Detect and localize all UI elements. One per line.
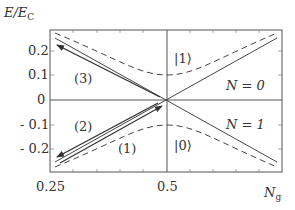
arrow-2 <box>57 103 158 157</box>
y-axis-label: E/EC <box>4 6 34 22</box>
arrow-1 <box>60 106 162 163</box>
arrow-1-label: (1) <box>118 142 136 155</box>
x-axis-label: Ng <box>264 186 281 202</box>
x-tick-0.5: 0.5 <box>157 180 178 193</box>
y-tick-0.2: 0.2 <box>28 44 49 57</box>
arrow-2-label: (2) <box>74 120 92 133</box>
ket-1-label: |1⟩ <box>174 52 192 65</box>
y-tick-0: 0 <box>37 93 45 106</box>
arrow-3-label: (3) <box>74 72 92 85</box>
y-tick-0.1: 0.1 <box>28 68 49 81</box>
x-tick-0.25: 0.25 <box>36 180 65 193</box>
ticks <box>50 30 282 172</box>
ket-0-label: |0⟩ <box>174 139 192 152</box>
upper-band-dashed <box>55 33 277 75</box>
y-tick-neg0.2: - 0.2 <box>20 142 49 155</box>
n1-label: N = 1 <box>226 118 265 131</box>
y-tick-neg0.1: - 0.1 <box>20 118 49 131</box>
plot-frame <box>50 30 282 172</box>
n0-label: N = 0 <box>226 79 265 92</box>
arrow-3 <box>57 45 160 97</box>
